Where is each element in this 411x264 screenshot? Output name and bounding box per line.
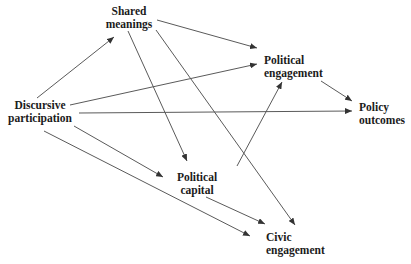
node-label-line: engagement [266, 244, 328, 257]
node-label-line: Political [167, 171, 227, 184]
node-shared-meanings: Shared meanings [95, 5, 163, 30]
node-label-line: engagement [264, 67, 336, 80]
node-label-line: Policy [359, 101, 411, 114]
node-label-line: meanings [95, 18, 163, 31]
node-label-line: Civic [266, 231, 328, 244]
node-label-line: Shared [95, 5, 163, 18]
path-diagram: Shared meanings Political engagement Pol… [0, 0, 411, 264]
arrows-layer [0, 0, 411, 264]
arrow-political-engagement-to-policy-outcomes [321, 81, 352, 101]
node-label-line: Political [264, 54, 336, 67]
arrow-political-capital-to-political-engagement [237, 82, 282, 166]
arrow-political-capital-to-civic-engagement [206, 197, 265, 224]
node-civic-engagement: Civic engagement [266, 231, 328, 256]
node-label-line: outcomes [359, 114, 411, 127]
node-label-line: Discursive [0, 99, 80, 112]
node-label-line: participation [0, 112, 80, 125]
arrow-shared-meanings-to-political-engagement [157, 20, 257, 48]
arrow-shared-meanings-to-political-capital [128, 31, 187, 161]
arrow-discursive-participation-to-shared-meanings [37, 37, 114, 98]
node-label-line: capital [167, 184, 227, 197]
node-discursive-participation: Discursive participation [0, 99, 80, 124]
node-policy-outcomes: Policy outcomes [359, 101, 411, 126]
node-political-capital: Political capital [167, 171, 227, 196]
arrow-discursive-participation-to-political-engagement [70, 64, 257, 105]
node-political-engagement: Political engagement [264, 54, 336, 79]
